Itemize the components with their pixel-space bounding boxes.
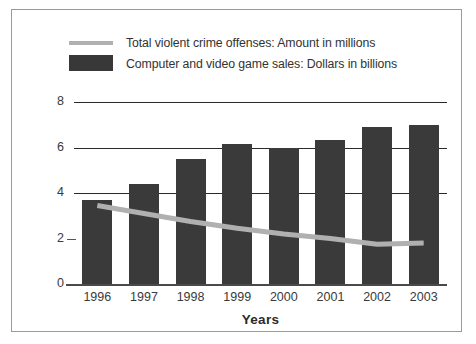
- plot-area: 02468: [74, 102, 447, 284]
- x-axis-label-1999: 1999: [214, 290, 260, 304]
- x-axis-title: Years: [74, 312, 447, 327]
- x-axis-label-2001: 2001: [307, 290, 353, 304]
- legend-item-game-sales: Computer and video game sales: Dollars i…: [69, 53, 469, 74]
- x-axis-label-2003: 2003: [401, 290, 447, 304]
- x-axis-label-2002: 2002: [354, 290, 400, 304]
- x-axis-label-1998: 1998: [168, 290, 214, 304]
- x-axis-label-2000: 2000: [261, 290, 307, 304]
- y-axis-label-6: 6: [38, 141, 64, 154]
- x-axis-label-1996: 1996: [74, 290, 120, 304]
- legend-label-violent-crime: Total violent crime offenses: Amount in …: [113, 36, 375, 50]
- x-axis-baseline: [66, 284, 447, 286]
- y-axis-label-2: 2: [38, 232, 64, 245]
- x-axis-label-1997: 1997: [121, 290, 167, 304]
- x-axis-tick-labels: 19961997199819992000200120022003: [74, 290, 447, 308]
- line-series-violent-crime: [74, 102, 447, 284]
- legend-label-game-sales: Computer and video game sales: Dollars i…: [113, 57, 397, 71]
- chart-card: Total violent crime offenses: Amount in …: [11, 9, 462, 332]
- chart-legend: Total violent crime offenses: Amount in …: [69, 32, 469, 74]
- y-axis-label-4: 4: [38, 186, 64, 199]
- legend-box-swatch-icon: [69, 53, 113, 74]
- legend-item-violent-crime: Total violent crime offenses: Amount in …: [69, 32, 469, 53]
- y-axis-label-8: 8: [38, 95, 64, 108]
- legend-line-swatch-icon: [69, 32, 113, 53]
- y-axis-label-0: 0: [38, 277, 64, 290]
- chart-figure: Total violent crime offenses: Amount in …: [0, 0, 476, 344]
